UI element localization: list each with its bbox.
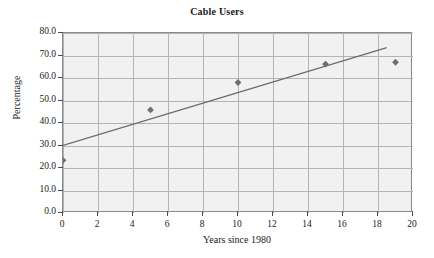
y-tick-mark [58,55,63,56]
chart-figure: Cable Users Percentage 0.010.020.030.040… [0,0,434,258]
y-tick-label: 80.0 [16,27,56,36]
x-tick-label: 6 [152,219,182,229]
y-tick-label: 0.0 [16,207,56,216]
y-tick-mark [58,122,63,123]
y-tick-mark [58,167,63,168]
x-tick-label: 16 [327,219,357,229]
plot-area [62,32,412,212]
x-tick-mark [272,211,273,216]
y-tick-mark [58,32,63,33]
plot-canvas [63,33,413,213]
y-tick-mark [58,145,63,146]
y-tick-mark [58,100,63,101]
x-tick-mark [412,211,413,216]
x-tick-label: 4 [117,219,147,229]
x-tick-label: 2 [82,219,112,229]
x-tick-mark [62,211,63,216]
x-axis-label: Years since 1980 [62,234,412,245]
x-tick-label: 14 [292,219,322,229]
x-tick-label: 10 [222,219,252,229]
y-tick-mark [58,190,63,191]
x-tick-mark [202,211,203,216]
x-tick-label: 20 [397,219,427,229]
y-tick-label: 30.0 [16,140,56,149]
x-tick-label: 12 [257,219,287,229]
data-point-markers [63,59,399,164]
x-tick-mark [307,211,308,216]
y-tick-label: 70.0 [16,50,56,59]
y-tick-label: 40.0 [16,117,56,126]
x-tick-label: 18 [362,219,392,229]
y-tick-label: 20.0 [16,162,56,171]
chart-title: Cable Users [0,6,434,17]
x-tick-mark [342,211,343,216]
x-tick-mark [237,211,238,216]
trend-line [63,48,387,146]
x-tick-mark [167,211,168,216]
y-tick-label: 50.0 [16,95,56,104]
x-tick-mark [132,211,133,216]
x-tick-label: 8 [187,219,217,229]
y-tick-label: 10.0 [16,185,56,194]
y-tick-label: 60.0 [16,72,56,81]
x-tick-mark [97,211,98,216]
x-tick-label: 0 [47,219,77,229]
y-tick-mark [58,77,63,78]
x-tick-mark [377,211,378,216]
